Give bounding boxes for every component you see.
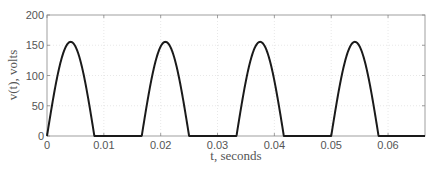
voltage-waveform-line (47, 42, 425, 136)
y-axis-label: v(t), volts (5, 50, 20, 101)
x-axis-label: t, seconds (210, 148, 261, 163)
x-tick-label: 0 (44, 139, 50, 151)
y-tick-label: 0 (38, 130, 44, 142)
y-tick-label: 50 (32, 100, 44, 112)
x-tick-label: 0.02 (150, 139, 171, 151)
x-tick-label: 0.01 (93, 139, 114, 151)
x-tick-label: 0.04 (264, 139, 285, 151)
y-tick-labels: 050100150200 (26, 9, 44, 142)
x-tick-label: 0.05 (320, 139, 341, 151)
y-tick-label: 150 (26, 39, 44, 51)
y-tick-label: 200 (26, 9, 44, 21)
chart: 00.010.020.030.040.050.06 050100150200 t… (0, 0, 438, 171)
y-tick-label: 100 (26, 70, 44, 82)
x-tick-label: 0.06 (377, 139, 398, 151)
